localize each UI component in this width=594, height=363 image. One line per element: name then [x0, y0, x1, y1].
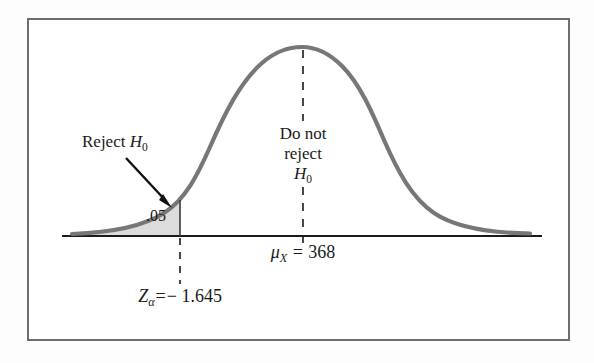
tail-area-label: .05: [146, 207, 166, 224]
do-not-reject-line2: reject: [280, 144, 327, 164]
z-symbol: Z: [138, 286, 148, 306]
reject-arrow: [126, 158, 172, 208]
figure-root: Reject H0 Do not reject H0 .05 μX = 368 …: [0, 0, 594, 363]
do-not-reject-line1: Do not: [280, 124, 327, 144]
critical-value-label: Zα=− 1.645: [138, 287, 222, 309]
reject-region-label: Reject H0: [82, 133, 148, 154]
mu-subscript: X: [280, 251, 287, 265]
mean-axis-label: μX = 368: [271, 243, 336, 265]
donot-h-subscript: 0: [306, 173, 312, 186]
mu-value: 368: [308, 242, 335, 262]
reject-word: Reject: [82, 132, 125, 151]
z-minus-sign: −: [167, 286, 177, 306]
z-equals-sign: =: [155, 286, 167, 306]
mu-symbol: μ: [271, 242, 280, 262]
do-not-reject-hypothesis: H0: [280, 164, 327, 186]
mu-equals-sign: =: [292, 242, 304, 262]
do-not-reject-label: Do not reject H0: [280, 124, 327, 186]
reject-h-symbol: H: [130, 132, 142, 151]
donot-h-symbol: H: [294, 164, 306, 183]
reject-h-subscript: 0: [142, 141, 148, 154]
z-value: 1.645: [181, 286, 222, 306]
